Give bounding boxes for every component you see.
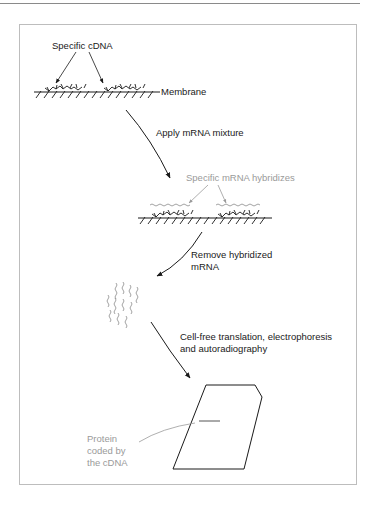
membrane-2 bbox=[138, 185, 272, 224]
label-specific-mrna-hybridizes: Specific mRNA hybridizes bbox=[186, 172, 295, 184]
label-protein-line2: coded by bbox=[87, 445, 126, 457]
cdna-strands bbox=[45, 84, 145, 91]
label-protein-line3: the cDNA bbox=[87, 457, 128, 469]
free-mrna bbox=[107, 282, 138, 328]
gel-slab bbox=[139, 385, 262, 469]
membrane-1 bbox=[34, 52, 160, 98]
label-remove-line1: Remove hybridized bbox=[191, 249, 272, 261]
label-protein-line1: Protein bbox=[87, 433, 117, 445]
cdna-strands-2 bbox=[152, 210, 259, 217]
label-translation-line1: Cell-free translation, electrophoresis bbox=[180, 331, 332, 343]
diagram-canvas bbox=[0, 0, 378, 506]
protein-callout-line bbox=[139, 423, 195, 442]
mrna-hybrid bbox=[150, 204, 260, 206]
label-translation-line2: and autoradiography bbox=[180, 343, 267, 355]
label-membrane: Membrane bbox=[161, 86, 206, 98]
label-specific-cdna: Specific cDNA bbox=[52, 40, 113, 52]
label-remove-line2: mRNA bbox=[191, 261, 219, 273]
label-apply-mrna: Apply mRNA mixture bbox=[156, 127, 244, 139]
arrow-apply-mrna bbox=[126, 110, 170, 178]
